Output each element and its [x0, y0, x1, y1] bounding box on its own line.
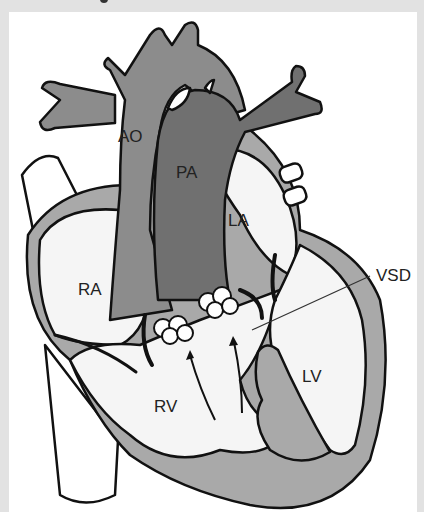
label-pa: PA	[176, 163, 198, 182]
aorta-left-branch	[40, 82, 115, 130]
label-vsd: VSD	[376, 266, 411, 285]
label-ao: AO	[118, 127, 143, 146]
label-la: LA	[228, 211, 249, 230]
label-rv: RV	[154, 397, 178, 416]
label-lv: LV	[302, 367, 322, 386]
heart-diagram: AO PA LA RA RV LV VSD	[0, 0, 424, 512]
label-ra: RA	[78, 280, 102, 299]
